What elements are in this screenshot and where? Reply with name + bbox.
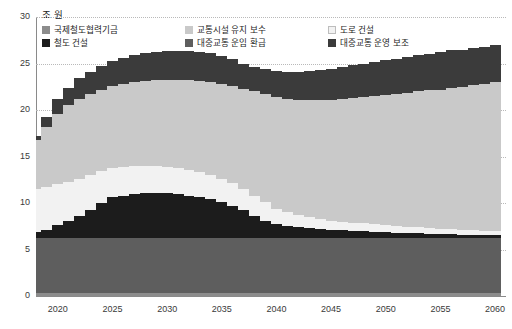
series-area [36,238,501,293]
x-tick-label: 2025 [93,305,133,314]
legend-swatch-icon [42,26,50,34]
legend-swatch-icon [185,39,193,47]
x-axis-line [36,296,506,297]
legend-item-transit_operating_subsidy[interactable]: 대중교통 운영 보조 [328,38,471,48]
legend-label: 대중교통 운임 환급 [197,38,266,48]
legend-item-intl_rail_fund[interactable]: 국제철도협력기금 [42,25,185,35]
y-tick-label: 10 [4,198,30,207]
x-tick-label: 2035 [202,305,242,314]
plot-area [36,17,506,296]
legend-item-rail_construction[interactable]: 철도 건설 [42,38,185,48]
y-tick-label: 30 [4,12,30,21]
x-tick-label: 2045 [311,305,351,314]
x-tick-label: 2050 [366,305,406,314]
x-tick-label: 2055 [420,305,460,314]
legend-item-road_construction[interactable]: 도로 건설 [328,25,471,35]
series-area [36,293,501,296]
y-tick-label: 20 [4,105,30,114]
y-tick-label: 25 [4,59,30,68]
legend-label: 교통시설 유지 보수 [197,25,266,35]
legend-swatch-icon [328,26,336,34]
legend-label: 국제철도협력기금 [54,25,118,35]
y-tick-label: 0 [4,291,30,300]
y-tick-label: 5 [4,245,30,254]
legend-swatch-icon [328,39,336,47]
stacked-area-series [36,17,506,296]
legend-swatch-icon [42,39,50,47]
x-tick-label: 2020 [38,305,78,314]
legend-label: 철도 건설 [54,38,88,48]
legend-label: 도로 건설 [340,25,374,35]
legend-item-transport_maint[interactable]: 교통시설 유지 보수 [185,25,328,35]
legend-label: 대중교통 운영 보조 [340,38,409,48]
x-tick-label: 2060 [475,305,512,314]
legend-item-transit_fare_refund[interactable]: 대중교통 운임 환급 [185,38,328,48]
chart-container: 조 원 051015202530 20202025203020352040204… [0,0,512,329]
x-tick-label: 2040 [256,305,296,314]
chart-legend: 국제철도협력기금교통시설 유지 보수도로 건설철도 건설대중교통 운임 환급대중… [42,25,472,48]
y-tick-label: 15 [4,152,30,161]
legend-swatch-icon [185,26,193,34]
x-tick-label: 2030 [147,305,187,314]
